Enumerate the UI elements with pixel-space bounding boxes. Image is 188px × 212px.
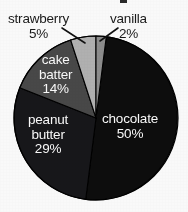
chocolate-percent: 50% — [102, 127, 158, 142]
slice-label-vanilla: vanilla 2% — [110, 12, 147, 41]
peanut-butter-name-line2: butter — [28, 128, 68, 143]
pie-chart: strawberry 5% vanilla 2% chocolate 50% p… — [0, 0, 188, 212]
cake-batter-percent: 14% — [39, 82, 72, 97]
peanut-butter-name-line1: peanut — [28, 113, 68, 128]
vanilla-name: vanilla — [110, 11, 147, 26]
cake-batter-name-line1: cake — [39, 53, 72, 68]
strawberry-name: strawberry — [8, 11, 69, 26]
chocolate-name: chocolate — [102, 112, 158, 127]
cake-batter-name-line2: batter — [39, 68, 72, 83]
slice-label-peanut-butter: peanut butter 29% — [28, 113, 68, 157]
slice-label-cake-batter: cake batter 14% — [39, 53, 72, 97]
slice-label-chocolate: chocolate 50% — [102, 112, 158, 141]
peanut-butter-percent: 29% — [28, 142, 68, 157]
vanilla-percent: 2% — [110, 27, 147, 41]
strawberry-percent: 5% — [8, 27, 69, 41]
slice-label-strawberry: strawberry 5% — [8, 12, 69, 41]
